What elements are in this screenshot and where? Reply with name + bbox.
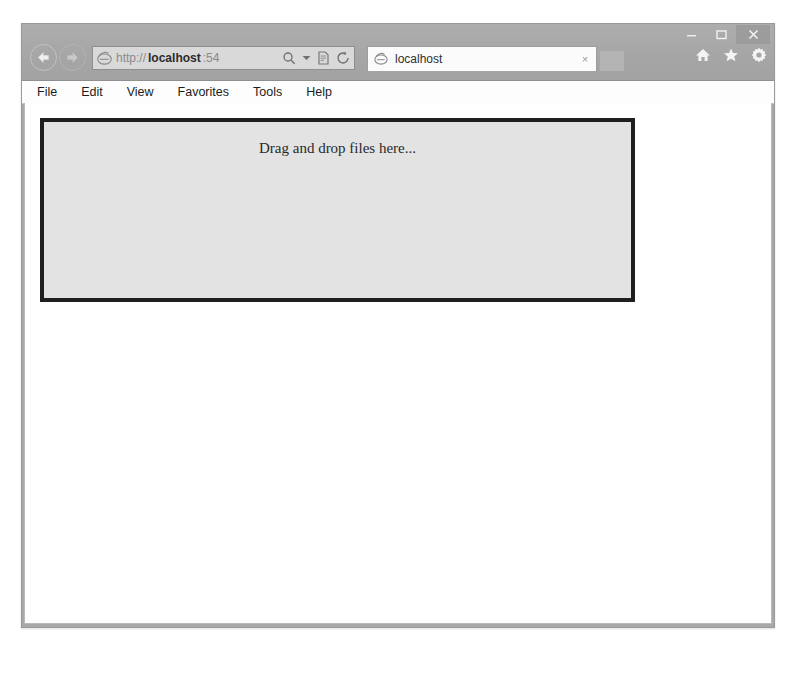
- search-icon[interactable]: [281, 50, 297, 66]
- tab-localhost[interactable]: localhost ×: [367, 46, 597, 71]
- menu-item-tools[interactable]: Tools: [253, 86, 282, 99]
- drop-zone-label: Drag and drop files here...: [44, 140, 631, 157]
- page-content: Drag and drop files here...: [24, 103, 772, 624]
- menu-item-file[interactable]: File: [37, 86, 57, 99]
- tab-favicon-icon: [373, 51, 389, 67]
- url-text[interactable]: http://localhost:54: [116, 51, 277, 65]
- tab-title: localhost: [395, 52, 573, 66]
- compatibility-view-icon[interactable]: [315, 50, 331, 66]
- file-drop-zone[interactable]: Drag and drop files here...: [40, 118, 635, 302]
- address-bar[interactable]: http://localhost:54: [92, 46, 355, 70]
- settings-gear-icon[interactable]: [750, 46, 768, 64]
- ie-logo-icon: [96, 50, 112, 66]
- menu-item-edit[interactable]: Edit: [81, 86, 103, 99]
- menu-item-favorites[interactable]: Favorites: [178, 86, 229, 99]
- minimize-button[interactable]: [676, 25, 706, 44]
- menu-item-view[interactable]: View: [127, 86, 154, 99]
- navigation-buttons: [30, 44, 86, 71]
- home-icon[interactable]: [694, 46, 712, 64]
- url-scheme: http://: [116, 51, 146, 65]
- new-tab-button[interactable]: [599, 50, 625, 71]
- refresh-icon[interactable]: [335, 50, 351, 66]
- menu-bar: File Edit View Favorites Tools Help: [22, 80, 774, 104]
- tab-strip: localhost ×: [367, 46, 625, 71]
- url-host: localhost: [146, 51, 203, 65]
- window-controls: [676, 24, 770, 44]
- close-button[interactable]: [736, 25, 770, 44]
- favorites-star-icon[interactable]: [722, 46, 740, 64]
- tab-close-icon[interactable]: ×: [579, 53, 591, 65]
- command-bar: [694, 46, 768, 64]
- menu-item-help[interactable]: Help: [306, 86, 332, 99]
- maximize-button[interactable]: [706, 25, 736, 44]
- browser-window: http://localhost:54: [21, 23, 775, 628]
- back-button[interactable]: [30, 44, 57, 71]
- browser-titlebar: http://localhost:54: [22, 24, 774, 80]
- chevron-down-icon[interactable]: [301, 55, 311, 61]
- url-path: :54: [203, 51, 220, 65]
- forward-button[interactable]: [59, 44, 86, 71]
